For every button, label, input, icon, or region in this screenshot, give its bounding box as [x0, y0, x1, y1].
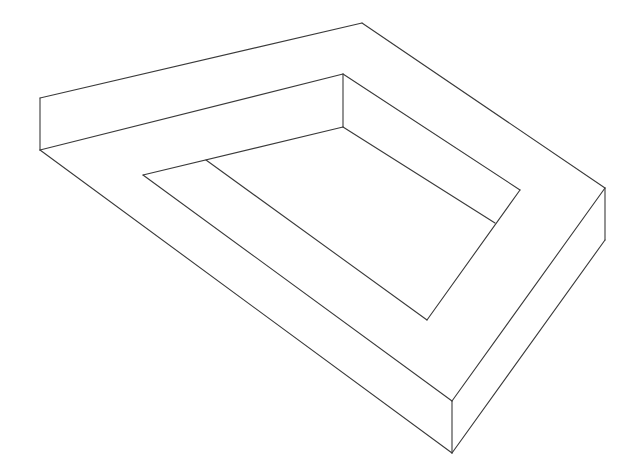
inner-left-edge: [143, 175, 452, 401]
inner-top-right-edge: [343, 127, 495, 223]
outer-bottom-left-edge: [40, 150, 452, 453]
top-left-inner-rail: [40, 74, 343, 150]
outer-top-left-edge: [40, 23, 362, 98]
outer-top-right-edge: [362, 23, 605, 188]
frame-line-drawing: [0, 0, 636, 475]
inner-top-left-edge: [143, 127, 343, 175]
impossible-frame-drawing: [0, 0, 636, 475]
top-right-inner-rail: [343, 74, 520, 190]
bottom-right-lower-edge: [452, 240, 605, 453]
bottom-right-top-edge: [452, 188, 605, 401]
frame-edges: [40, 23, 605, 453]
